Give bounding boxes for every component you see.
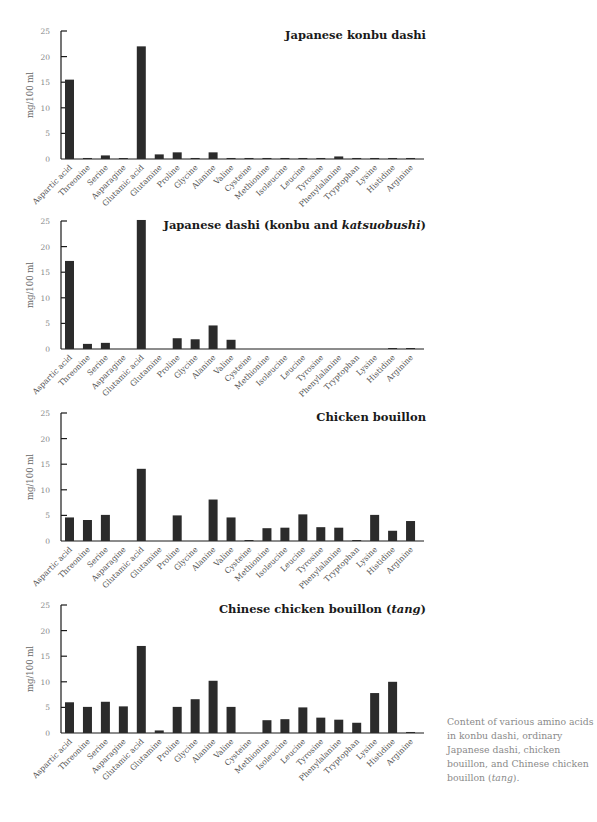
y-tick-label: 20 <box>40 627 50 636</box>
bar <box>101 702 110 733</box>
bar <box>298 707 307 733</box>
bar <box>370 693 379 733</box>
bar <box>191 699 200 733</box>
caption-italic-term: tang <box>492 772 513 783</box>
bar <box>119 706 128 733</box>
bar <box>209 681 218 733</box>
bar <box>155 730 164 733</box>
figure-caption: Content of various amino acids in konbu … <box>447 715 597 785</box>
y-tick-label: 5 <box>45 703 50 712</box>
caption-text-end: ). <box>513 772 520 783</box>
y-tick-label: 10 <box>40 678 50 687</box>
bar-chart-4: Chinese chicken bouillon (tang)051015202… <box>0 0 440 190</box>
bar <box>388 682 397 733</box>
bar <box>227 707 236 733</box>
y-tick-label: 15 <box>40 652 50 661</box>
bar <box>316 718 325 733</box>
bar <box>334 720 343 733</box>
bar <box>65 702 74 733</box>
y-tick-label: 25 <box>40 601 50 610</box>
bar <box>352 723 361 733</box>
caption-text: Content of various amino acids in konbu … <box>447 716 593 783</box>
chart-plot: 0510152025mg/100 mlAspartic acidThreonin… <box>0 0 440 822</box>
bar <box>280 719 289 733</box>
bar <box>137 646 146 733</box>
bar <box>262 720 271 733</box>
y-axis-label: mg/100 ml <box>25 646 35 692</box>
bar <box>173 707 182 733</box>
bar <box>83 707 92 733</box>
y-tick-label: 0 <box>45 729 50 738</box>
bar <box>406 732 415 733</box>
